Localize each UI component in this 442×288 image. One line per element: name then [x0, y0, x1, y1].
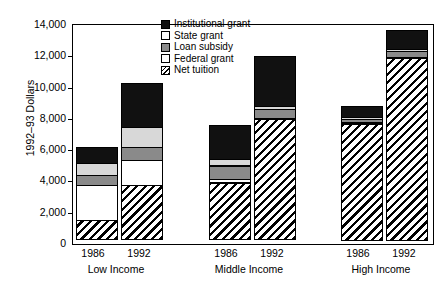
x-axis-group-middle-income: 19861992Middle Income: [205, 246, 293, 276]
y-axis-tick-mark: [68, 88, 73, 89]
bar-middle-income-1986: [209, 125, 251, 244]
bar-segment-nettuition: [341, 124, 383, 241]
bar-segment-state: [121, 127, 163, 147]
x-axis-group-label: Middle Income: [205, 262, 293, 276]
legend-swatch-institutional-icon: [161, 20, 170, 29]
y-axis-tick-mark: [68, 56, 73, 57]
stacked-bar-chart: 1992–93 Dollars 14,00012,00010,0008,0006…: [0, 0, 442, 288]
legend-swatch-loan-icon: [161, 43, 170, 52]
x-axis-year-label: 1992: [118, 246, 160, 260]
y-axis-tick-mark: [68, 150, 73, 151]
y-axis-tick-mark: [68, 119, 73, 120]
legend-label: Institutional grant: [174, 19, 250, 29]
legend-item-loan: Loan subsidy: [161, 42, 250, 52]
legend-swatch-nettuition-icon: [161, 66, 170, 75]
x-axis-group-label: High Income: [337, 262, 425, 276]
y-axis-tick-labels: 14,00012,00010,0008,0006,0004,0002,0000: [14, 0, 66, 288]
legend-item-federal: Federal grant: [161, 54, 250, 64]
legend-swatch-federal-icon: [161, 54, 170, 63]
plot-area: [72, 24, 434, 245]
bar-segment-loan: [209, 166, 251, 180]
y-axis-tick-label: 14,000: [14, 19, 66, 29]
legend-label: State grant: [174, 31, 223, 41]
bar-segment-nettuition: [76, 220, 118, 240]
legend-label: Net tuition: [174, 65, 219, 75]
bar-segment-institutional: [254, 56, 296, 107]
bar-segment-loan: [121, 147, 163, 161]
bar-segment-federal: [76, 185, 118, 221]
x-axis-group-high-income: 19861992High Income: [337, 246, 425, 276]
y-axis-tick-label: 8,000: [14, 113, 66, 123]
y-axis-tick-label: 6,000: [14, 144, 66, 154]
bar-segment-institutional: [76, 147, 118, 164]
legend-label: Loan subsidy: [174, 42, 233, 52]
x-axis-year-label: 1992: [251, 246, 293, 260]
legend-item-nettuition: Net tuition: [161, 65, 250, 75]
bar-low-income-1986: [76, 147, 118, 244]
bar-segment-nettuition: [121, 185, 163, 241]
x-axis-group-label: Low Income: [72, 262, 160, 276]
x-axis-year-row: 19861992: [337, 246, 425, 260]
x-axis-year-row: 19861992: [72, 246, 160, 260]
legend-item-institutional: Institutional grant: [161, 19, 250, 29]
bar-middle-income-1992: [254, 56, 296, 244]
bar-segment-nettuition: [386, 58, 428, 241]
legend-label: Federal grant: [174, 54, 233, 64]
bar-high-income-1986: [341, 106, 383, 244]
bar-segment-institutional: [209, 125, 251, 159]
chart-legend: Institutional grantState grantLoan subsi…: [161, 19, 250, 75]
x-axis-group-low-income: 19861992Low Income: [72, 246, 160, 276]
legend-item-state: State grant: [161, 31, 250, 41]
x-axis-year-label: 1986: [337, 246, 379, 260]
y-axis-tick-mark: [68, 213, 73, 214]
x-axis-year-label: 1986: [72, 246, 114, 260]
legend-swatch-state-icon: [161, 31, 170, 40]
bar-segment-federal: [121, 160, 163, 186]
bar-low-income-1992: [121, 83, 163, 244]
bar-segment-institutional: [121, 83, 163, 128]
x-axis-year-row: 19861992: [205, 246, 293, 260]
y-axis-tick-label: 0: [14, 238, 66, 248]
bar-segment-nettuition: [209, 183, 251, 241]
y-axis-tick-label: 4,000: [14, 175, 66, 185]
y-axis-tick-label: 10,000: [14, 82, 66, 92]
x-axis-year-label: 1992: [383, 246, 425, 260]
bar-segment-nettuition: [254, 119, 296, 240]
y-axis-tick-label: 12,000: [14, 50, 66, 60]
bar-high-income-1992: [386, 30, 428, 244]
y-axis-tick-label: 2,000: [14, 207, 66, 217]
bar-segment-institutional: [386, 30, 428, 50]
y-axis-tick-mark: [68, 181, 73, 182]
x-axis-labels: 19861992Low Income19861992Middle Income1…: [72, 246, 434, 288]
x-axis-year-label: 1986: [205, 246, 247, 260]
